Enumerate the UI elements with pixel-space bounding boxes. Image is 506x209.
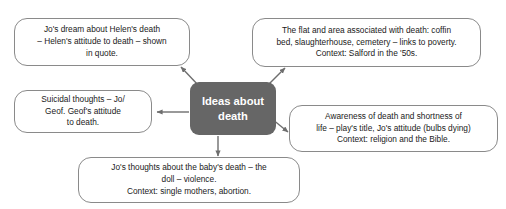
branch-node-bottom[interactable]: Jo's thoughts about the baby's death – t… <box>78 157 300 203</box>
branch-node-right[interactable]: Awareness of death and shortness of life… <box>289 105 498 152</box>
branch-node-top-right[interactable]: The flat and area associated with death:… <box>252 18 481 67</box>
branch-label-bottom: Jo's thoughts about the baby's death – t… <box>111 162 266 197</box>
branch-label-top-left: Jo's dream about Helen's death – Helen's… <box>37 24 166 59</box>
branch-label-left: Suicidal thoughts – Jo/ Geof. Geof's att… <box>41 94 124 129</box>
central-topic-node[interactable]: Ideas about death <box>190 82 276 135</box>
mindmap-canvas: Jo's dream about Helen's death – Helen's… <box>0 0 506 209</box>
branch-node-top-left[interactable]: Jo's dream about Helen's death – Helen's… <box>14 18 190 66</box>
branch-label-top-right: The flat and area associated with death:… <box>276 25 456 60</box>
branch-node-left[interactable]: Suicidal thoughts – Jo/ Geof. Geof's att… <box>14 90 152 133</box>
branch-label-right: Awareness of death and shortness of life… <box>316 111 470 146</box>
